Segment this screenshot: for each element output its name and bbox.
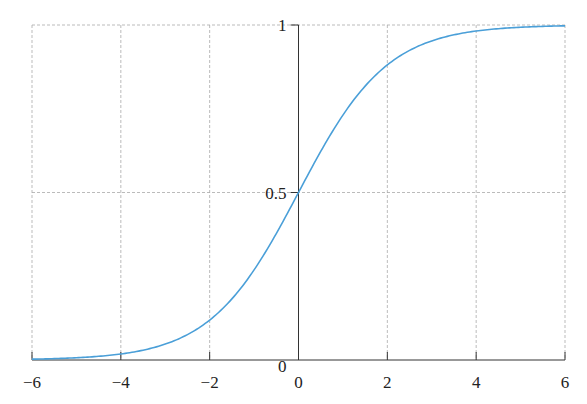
y-tick-label: 0 [278,357,287,376]
y-tick-label: 1 [278,16,287,35]
x-tick-labels: −6−4−20246 [23,373,569,392]
x-tick-label: −4 [112,373,131,392]
x-tick-label: 6 [561,373,570,392]
sigmoid-chart: −6−4−20246 00.51 [0,0,587,404]
x-tick-label: 2 [383,373,392,392]
x-tick-label: −6 [23,373,41,392]
x-tick-label: 0 [294,373,303,392]
x-tick-label: −2 [201,373,219,392]
x-tick-label: 4 [472,373,481,392]
y-tick-labels: 00.51 [265,16,286,376]
y-tick-label: 0.5 [265,184,286,203]
